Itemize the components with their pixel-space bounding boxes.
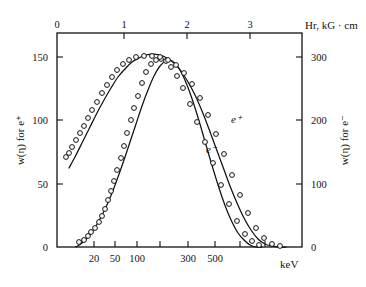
data-point <box>235 219 240 224</box>
data-point <box>195 120 200 125</box>
data-point <box>95 100 100 105</box>
bottom-tick-label-0: 20 <box>89 253 100 264</box>
left-axis-tick-labels: 050100150 <box>32 52 48 253</box>
data-point <box>175 74 180 79</box>
data-point <box>257 243 262 248</box>
plot-frame <box>57 33 302 247</box>
data-point <box>243 232 248 237</box>
data-point <box>90 108 95 113</box>
data-point <box>188 102 193 107</box>
data-point <box>136 94 141 99</box>
data-point <box>77 240 82 245</box>
top-tick-label-3: 3 <box>247 19 252 30</box>
right-axis-tick-labels: 0100200300 <box>311 52 327 253</box>
data-point <box>134 55 139 60</box>
left-tick-label-3: 150 <box>32 52 48 63</box>
data-point <box>219 183 224 188</box>
data-point <box>238 193 243 198</box>
data-point <box>198 96 203 101</box>
data-point <box>214 132 219 137</box>
left-tick-label-0: 0 <box>43 242 48 253</box>
bottom-tick-label-3: 300 <box>180 253 196 264</box>
data-point <box>132 106 137 111</box>
data-point <box>105 83 110 88</box>
top-axis-ticks <box>124 33 250 39</box>
data-point <box>97 220 102 225</box>
data-point <box>112 179 117 184</box>
data-point <box>211 161 216 166</box>
right-tick-label-1: 100 <box>311 179 327 190</box>
data-point <box>100 214 105 219</box>
data-point <box>110 75 115 80</box>
top-tick-label-0: 0 <box>54 19 59 30</box>
data-point <box>149 62 154 67</box>
curve-electron <box>76 60 262 247</box>
data-point <box>74 138 79 143</box>
data-point <box>122 144 127 149</box>
data-point <box>89 230 94 235</box>
left-tick-label-2: 100 <box>32 115 48 126</box>
data-point <box>70 145 75 150</box>
data-point <box>115 68 120 73</box>
data-point <box>174 63 179 68</box>
data-point <box>254 226 259 231</box>
data-point <box>222 152 227 157</box>
data-point <box>250 239 255 244</box>
data-point <box>82 124 87 129</box>
series-label-positron: e⁺ <box>231 113 243 125</box>
right-tick-label-3: 300 <box>311 52 327 63</box>
data-point <box>140 81 145 86</box>
data-point <box>158 55 163 60</box>
data-point <box>115 168 120 173</box>
left-tick-label-1: 50 <box>38 179 49 190</box>
top-axis-tick-labels: 0123 <box>54 19 252 30</box>
data-point <box>262 236 267 241</box>
data-point <box>270 242 275 247</box>
data-point <box>169 65 174 70</box>
right-tick-label-2: 200 <box>311 115 327 126</box>
data-point <box>227 202 232 207</box>
data-point <box>206 113 211 118</box>
right-tick-label-0: 0 <box>311 242 316 253</box>
data-point <box>82 238 87 243</box>
top-tick-label-2: 2 <box>184 19 189 30</box>
data-point <box>230 173 235 178</box>
data-point <box>78 131 83 136</box>
figure-canvas: 0123 2050100300500 050100150 0100200300 … <box>0 0 366 287</box>
data-point <box>125 131 130 136</box>
data-point <box>144 70 149 75</box>
data-point <box>119 156 124 161</box>
bottom-tick-label-1: 50 <box>110 253 121 264</box>
bottom-axis-tick-labels: 2050100300500 <box>89 253 223 264</box>
bottom-axis-ticks <box>94 241 265 247</box>
data-point <box>103 207 108 212</box>
left-axis-title: w(η) for e⁺ <box>14 115 27 165</box>
data-point <box>190 82 195 87</box>
data-point <box>127 58 132 63</box>
data-point <box>181 86 186 91</box>
data-point <box>121 62 126 67</box>
data-point <box>142 54 147 59</box>
right-axis-title: w(η) for e⁻ <box>338 115 351 165</box>
beta-spectrum-plot: 0123 2050100300500 050100150 0100200300 … <box>0 0 366 287</box>
series-inline-labels: e⁻e⁺ <box>206 113 243 155</box>
data-point <box>278 244 283 249</box>
data-point <box>182 71 187 76</box>
right-axis-ticks <box>296 57 302 184</box>
bottom-tick-label-4: 500 <box>207 253 223 264</box>
top-tick-label-1: 1 <box>121 19 126 30</box>
data-point <box>109 189 114 194</box>
data-point <box>100 91 105 96</box>
data-point <box>166 58 171 63</box>
bottom-tick-label-2: 100 <box>129 253 145 264</box>
data-point <box>246 211 251 216</box>
top-axis-title: Hr, kG · cm <box>305 19 358 31</box>
left-axis-ticks <box>57 57 63 184</box>
data-point <box>106 198 111 203</box>
data-point <box>129 118 134 123</box>
data-point-markers <box>64 54 283 249</box>
series-label-electron: e⁻ <box>206 143 218 155</box>
data-point <box>93 226 98 231</box>
bottom-axis-title: keV <box>280 258 298 270</box>
data-point <box>67 151 72 156</box>
